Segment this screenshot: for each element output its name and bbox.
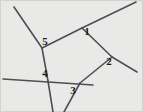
geometry-figure: 12345 [0,0,143,112]
geometry-diagram-svg: 12345 [0,0,143,112]
angle-label-1: 1 [84,25,90,37]
angle-label-2: 2 [106,55,112,67]
angle-label-3: 3 [70,84,76,96]
angle-label-4: 4 [42,67,48,79]
angle-label-5: 5 [42,35,48,47]
